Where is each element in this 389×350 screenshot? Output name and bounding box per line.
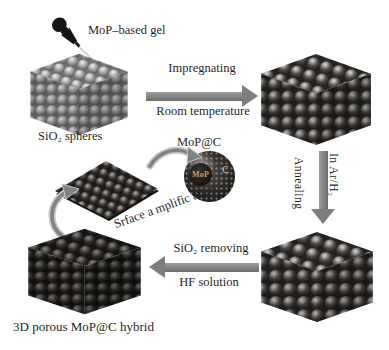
hf-solution-label: HF solution [157, 275, 261, 289]
atmosphere-label: In Ar/H₂ [327, 153, 340, 196]
annealed-cube [255, 230, 379, 324]
removing-arrow-icon [149, 257, 259, 277]
sio2-removing-label: SiO₂ removing [150, 241, 272, 255]
sio2-spheres-label: SiO₂ spheres [38, 129, 102, 143]
impregnating-arrow-icon [146, 86, 258, 106]
porous-hybrid-cube [22, 227, 147, 316]
sio2-spheres-cube [25, 52, 133, 137]
room-temperature-label: Room temperature [141, 104, 265, 118]
impregnating-label: Impregnating [146, 61, 258, 75]
synthesis-scheme-diagram: MoP–based gel SiO₂ spheres Impregnating … [0, 0, 389, 350]
annealing-label: Annealing [292, 157, 305, 209]
gel-label: MoP–based gel [88, 23, 165, 37]
hybrid-label: 3D porous MoP@C hybrid [13, 320, 154, 335]
impregnated-cube [255, 52, 377, 147]
carbon-shell-label: C [222, 164, 229, 175]
